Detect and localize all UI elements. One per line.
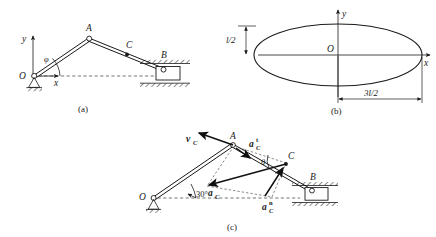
panel-c-vector-accel-total-subscript: C <box>215 193 220 200</box>
panel-b-x-axis-label: x <box>423 58 429 68</box>
panel-a-joint-A: A <box>85 23 92 41</box>
panel-c-angle-theta-label: θ <box>261 157 265 167</box>
panel-b-dim-semi-major-label: 3l/2 <box>363 88 379 98</box>
panel-c-vector-velocity-c-label: v <box>186 134 191 144</box>
panel-c-label-B: B <box>310 172 316 182</box>
panel-b-caption: (b) <box>331 106 342 116</box>
panel-a-y-axis: y <box>21 34 33 76</box>
panel-c-label-C: C <box>288 151 295 161</box>
panel-c-vector-accel-total-label: a <box>208 188 213 198</box>
panel-b-label-O: O <box>327 44 334 54</box>
panel-b-dim-semi-minor: l/2 <box>226 26 256 54</box>
panel-c: A C v C a C t a C a C <box>139 131 338 232</box>
panel-c-vector-accel-tangential-superscript: t <box>256 136 259 143</box>
panel-b-x-axis: x <box>258 55 430 68</box>
panel-a-label-O: O <box>19 71 26 81</box>
panel-b-y-axis-label: y <box>341 9 347 19</box>
panel-a-x-axis-label: x <box>53 78 59 88</box>
panel-c-slider-B: B <box>305 172 328 200</box>
panel-c-caption: (c) <box>227 222 237 232</box>
panel-a-caption: (a) <box>78 104 88 114</box>
panel-c-label-O: O <box>139 192 146 202</box>
panel-c-label-A: A <box>229 131 236 141</box>
panel-c-vector-accel-normal-subscript: C <box>269 207 274 214</box>
panel-c-vector-accel-tangential-subscript: C <box>256 144 261 151</box>
panel-b-dim-semi-minor-label: l/2 <box>226 35 236 45</box>
panel-a-label-B: B <box>161 50 167 60</box>
panel-b-dim-semi-major: 3l/2 <box>338 56 422 103</box>
panel-c-angle-thirty: 30° <box>188 184 208 199</box>
panel-a-angle-phi-label: φ <box>44 54 49 64</box>
panel-c-angle-thirty-label: 30° <box>196 189 208 199</box>
panel-c-vector-velocity-c[interactable]: v C <box>186 133 233 146</box>
panel-a-label-C: C <box>126 40 133 50</box>
mechanics-figure: y x A C φ <box>0 0 436 237</box>
panel-c-vector-accel-tangential-label: a <box>249 139 254 149</box>
panel-c-vector-accel-normal-label: a <box>262 202 267 212</box>
panel-c-vector-accel-normal-superscript: n <box>269 199 273 206</box>
panel-a-slider-B: B <box>156 50 180 80</box>
panel-a: y x A C φ <box>19 23 190 114</box>
panel-c-vector-velocity-c-subscript: C <box>193 139 198 146</box>
panel-a-label-A: A <box>85 23 92 33</box>
panel-b: y x O l/2 3l/2 (b) <box>226 9 430 116</box>
panel-c-angle-theta: θ <box>261 155 269 168</box>
panel-a-y-axis-label: y <box>21 34 27 44</box>
panel-b-y-axis: y <box>338 9 347 97</box>
figure-root: y x A C φ <box>0 0 436 237</box>
